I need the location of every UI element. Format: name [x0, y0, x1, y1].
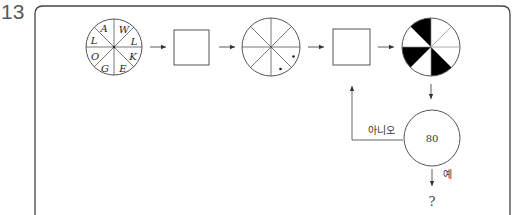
dot-marker [279, 68, 282, 71]
wheel-letter-2: W [119, 24, 130, 35]
wheel-letter-1: A [99, 23, 107, 34]
flowchart-diagram: A W L K E G O L [0, 0, 513, 215]
branch-yes-label: 예 [443, 169, 452, 180]
input-letter-wheel: A W L K E G O L [86, 19, 142, 75]
result-unknown: ? [429, 194, 436, 209]
wheel-letter-7: O [91, 51, 99, 62]
output-wheel [402, 18, 460, 76]
dot-marker [292, 55, 295, 58]
wheel-letter-3: L [130, 36, 138, 47]
wheel-letter-4: K [128, 51, 137, 62]
process-box-2 [333, 29, 370, 65]
wheel-letter-6: G [101, 63, 109, 74]
wheel-letter-5: E [118, 63, 127, 74]
branch-no-label: 아니오 [368, 125, 395, 136]
wheel-letter-8: L [90, 35, 98, 46]
decision-value: 80 [426, 133, 439, 144]
intermediate-wheel [242, 18, 300, 76]
process-box-1 [174, 30, 209, 65]
